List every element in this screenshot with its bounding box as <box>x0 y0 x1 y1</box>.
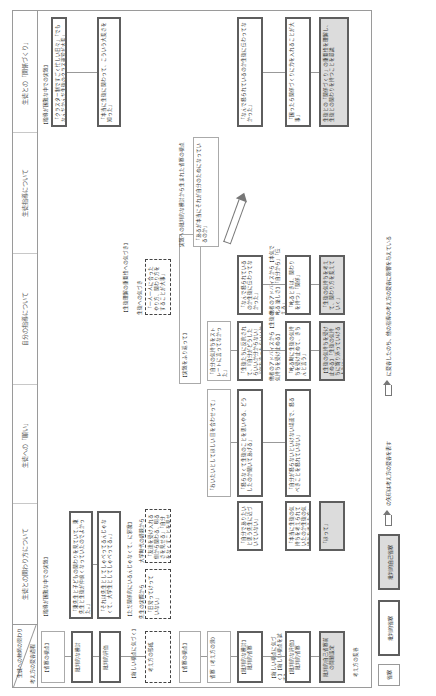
c4-critical-eval-box: 「叱るときは、関わりを持つ」「関係」 <box>285 255 311 315</box>
c3-critical-box: 「生徒たちに反抗されて、『自分がどうしたらいいか分からない』『何を言ったらいいか… <box>237 321 263 381</box>
column-header-relations: 生徒との関わり方について <box>13 503 37 624</box>
row-label-self-reflection: 批判的自己省察前の問題設定 <box>319 631 345 683</box>
legend-arrow-icon-2 <box>385 385 392 396</box>
row-label-critical-evaluation-2: 【批判的な評価】批判的省察 <box>285 631 311 683</box>
c4-self-reflection-box: 「生徒の気持ちを考えて、関わり方を変えていく」 <box>319 255 345 315</box>
legend-arrow-label: の矢印は考え方の変容を表す <box>384 441 391 506</box>
header-corner: 生徒への教師の関わり 考え方の変容過程 <box>13 624 37 687</box>
c4-form-label: 生徒への気づき <box>137 280 143 315</box>
diagram-frame: 生徒への教師の関わり 考え方の変容過程 生徒との関わり方について 生徒への「願い… <box>12 10 372 688</box>
connector <box>231 442 237 443</box>
c3-reflection-view-box: 【実践をふり返って】 <box>179 234 201 384</box>
corner-bottom-label: 考え方の変容過程 <box>28 644 35 684</box>
legend-arrow-icon <box>385 515 392 526</box>
c5-pre-label: 実践への批判的な検討から生まれた省察の視点 <box>179 137 185 247</box>
c1-critical-box-1: 「東先生と子どもの関わりを見ていて、東先生と生徒が仲良くなっていたのでよかった。… <box>69 511 93 619</box>
c3-advice: 他者のアドバイスから【生徒の気持ちを受け止める】 <box>269 311 281 381</box>
transformation-arrow <box>223 199 246 244</box>
row-label-formation: 考え方の形成 <box>145 631 171 683</box>
c4-formation-box: 「一人一人に合ったやり方、関わり方をすることが大事」 <box>145 259 171 315</box>
corner-top-label: 生徒への教師の関わり <box>15 628 22 678</box>
connector <box>263 442 285 443</box>
c2-critical-box-side: 「自分でありたいと思う先生に近づいていない」 <box>237 501 263 551</box>
row-label-transformation: 考え方の変容 <box>353 647 359 677</box>
connector <box>311 656 319 657</box>
connector <box>231 350 237 351</box>
row-label-source: 省察（考え方の源） <box>207 631 231 683</box>
connector <box>311 350 319 351</box>
column-header-relationship-building: 生徒との「関係づくり」 <box>13 11 37 132</box>
row-label-critical-evaluation: 批判的評価 <box>99 631 121 683</box>
connector <box>65 656 71 657</box>
connector <box>121 656 145 657</box>
c5-critical-box-3: 「なんで怒られているのか生徒に伝わってなかった」 <box>237 17 263 127</box>
c1-formation-box: 「日常ってけっていない」 <box>145 569 171 619</box>
c2-critical-box-2: 「自分が怒らないといけない場面で、怒るべきことを怒れていない」 <box>285 389 311 497</box>
column-header-own-teaching: 自分の指導について <box>13 253 37 384</box>
c1-formation-box-2: 「友達を受け入れる側から関わる、明るさを見せる」「自分をなくすことを見せる」 <box>145 509 171 563</box>
connector <box>263 284 285 285</box>
c5-critical-box-2: 「本当に生徒に関わって、こういう大変さを知った」 <box>97 17 121 127</box>
c2-critical-box-side-2: 「本当に生徒の気持ちを考えられていたのか生徒の気持ちを考えた方」 <box>285 501 311 551</box>
c5-reflection-box: 「あるが本当にそれが自分のためになっているのか」 <box>193 137 219 247</box>
c3-self-reflection-box: 【生徒の気持ちを受け止める】「生徒の気持ちに寄り添っていけるように」 <box>319 321 345 381</box>
connector <box>93 564 97 565</box>
connector <box>67 72 97 73</box>
row-label-reflection-view: 【省察の視点】 <box>41 631 65 683</box>
legend-note: に変容したのち、他の指導の考え方の変容に影響を与えている <box>384 236 391 376</box>
rotated-document-page: 生徒への教師の関わり 考え方の変容過程 生徒との関わり方について 生徒への「願い… <box>0 0 436 696</box>
c2-critical-box-1: 「怒らなくて生徒のことを思いやる、どうしたのか聞いてあげる」 <box>237 389 263 497</box>
header-row: 生徒への教師の関わり 考え方の変容過程 生徒との関わり方について 生徒への「願い… <box>13 11 38 687</box>
c3-reflection-box: 「自分の気持ちをストレートに言ってなかった」 <box>207 321 231 381</box>
row-label-new-view: 【新しい視点に気づく】 <box>131 626 137 681</box>
legend-reflection: 省察 <box>378 664 400 686</box>
column-header-wishes: 生徒への「願い」 <box>13 384 37 503</box>
row-label-critical-review: 批判的な検討 <box>71 631 93 683</box>
legend-critical-reflection: 批判的省察 <box>378 600 400 656</box>
row-label-critical-reflection: 【批判的な検討】批判的省察 <box>237 631 263 683</box>
c2-self-reflection-box: 「ほって」 <box>319 501 345 551</box>
c5-reflect-label: 【指導が困難な中での実践】 <box>43 62 49 127</box>
c5-critical-eval-box: 「困ったら関係づくりに力を入れることが大事」 <box>285 17 311 127</box>
connector <box>201 656 207 657</box>
column-header-guidance: 生徒指導について <box>13 132 37 253</box>
c1-reflect-label: 【指導が困難な中での実践】 <box>43 554 49 619</box>
connector <box>231 656 237 657</box>
connector <box>311 72 319 73</box>
c5-self-reflection-box: 生徒との「関係づくり」の重要性を理解し、生徒との関わりを持つことを意識 <box>319 17 349 127</box>
c1-new-view: 【ただ関係的にいるんじゃなくて、に邪魔】 <box>127 511 133 619</box>
c1-critical-box-2: 「それは先生としてしゃべってるんじゃなくて、大学生としてしゃべってる。」 <box>97 511 121 619</box>
c3-critical-eval-box: 「叱る時に生徒の気持ちを受け止めて、きちんと言う」 <box>285 321 311 381</box>
legend-critical-self-reflection: 批判的自己省察 <box>378 534 400 590</box>
connector <box>263 72 285 73</box>
connector <box>311 284 319 285</box>
c4-critical-box: 「なんで怒られているのか生徒に伝わってなかった」 <box>237 255 263 315</box>
c2-reflection-box: 「おいたいとしてほしい 目を合わせって」 <box>207 389 231 497</box>
connector <box>263 350 285 351</box>
connector <box>263 656 285 657</box>
connector <box>93 656 99 657</box>
c4-reflect-label: 【生徒理解の重要性への気づき】 <box>123 240 129 315</box>
c5-critical-box-1: 「クラスター制ですごく忙しい日々」「でもなんだかんだ生徒のクラス運営が大変」 <box>51 17 67 127</box>
row-label-reflection-view-2: 【省察の視点】 <box>179 631 201 683</box>
